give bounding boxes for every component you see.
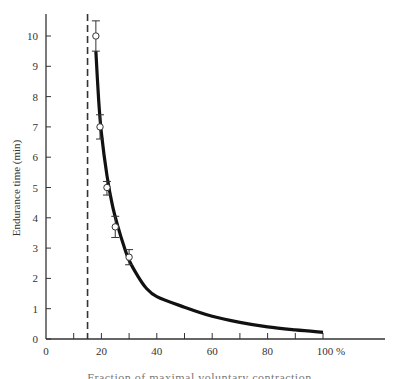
- y-tick-label: 8: [33, 91, 39, 103]
- data-point-marker: [104, 184, 110, 190]
- y-tick-label: 1: [33, 303, 39, 315]
- y-tick-label: 2: [33, 272, 39, 284]
- y-tick-label: 6: [33, 151, 39, 163]
- axes: 012345678910020406080100 %: [27, 14, 385, 357]
- y-tick-label: 5: [33, 182, 39, 194]
- fitted-curve: [96, 51, 323, 332]
- data-points: [92, 21, 133, 265]
- x-tick-label: 100 %: [317, 345, 345, 357]
- x-tick-label: 0: [43, 345, 49, 357]
- endurance-chart: 012345678910020406080100 % Endurance tim…: [0, 0, 399, 368]
- curve-path: [96, 51, 323, 332]
- y-tick-label: 10: [27, 30, 39, 42]
- data-point-marker: [126, 254, 132, 260]
- y-tick-label: 4: [33, 212, 39, 224]
- x-tick-label: 80: [262, 345, 274, 357]
- y-tick-label: 3: [33, 242, 39, 254]
- x-axis-title: Fraction of maximal voluntary contractio…: [0, 371, 399, 379]
- y-tick-label: 9: [33, 60, 39, 72]
- x-tick-label: 60: [207, 345, 219, 357]
- data-point-marker: [97, 124, 103, 130]
- y-tick-label: 7: [33, 121, 39, 133]
- x-tick-label: 40: [151, 345, 163, 357]
- data-point-marker: [93, 33, 99, 39]
- y-tick-label: 0: [33, 333, 39, 345]
- x-tick-label: 20: [96, 345, 108, 357]
- data-point-marker: [112, 224, 118, 230]
- x-axis-title-clip: Fraction of maximal voluntary contractio…: [0, 368, 399, 379]
- y-axis-title: Endurance time (min): [10, 139, 23, 236]
